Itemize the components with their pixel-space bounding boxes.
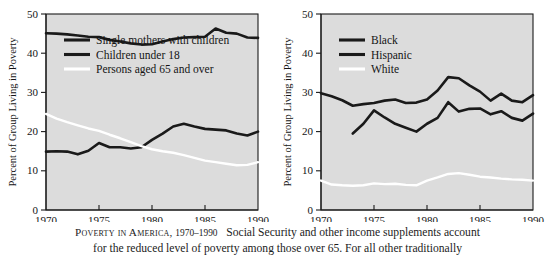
y-axis-title: Percent of Group Living in Poverty [7, 37, 18, 187]
y-tick-label: 20 [302, 125, 314, 137]
chart-panel-right: 0102030405019701975198019851990Percent o… [275, 0, 555, 222]
x-tick-label: 1985 [469, 214, 492, 222]
legend-label: Black [371, 34, 398, 46]
caption-body: Social Security and other income supplem… [226, 226, 480, 239]
x-tick-label: 1990 [522, 214, 545, 222]
x-tick-label: 1980 [416, 214, 439, 222]
legend-label: Single mothers with children [96, 34, 229, 47]
chart-panel-left: 0102030405019701975198019851990Percent o… [0, 0, 280, 222]
figure-caption: Poverty in America, 1970–1990 Social Sec… [0, 225, 555, 256]
poverty-in-america-figure: 0102030405019701975198019851990Percent o… [0, 0, 555, 259]
y-tick-label: 50 [27, 8, 39, 20]
y-axis-title: Percent of Group Living in Poverty [282, 37, 293, 187]
x-tick-label: 1990 [247, 214, 270, 222]
y-tick-label: 30 [302, 86, 314, 98]
y-tick-label: 10 [27, 164, 39, 176]
legend-label: White [371, 63, 399, 75]
chart-panels: 0102030405019701975198019851990Percent o… [0, 0, 555, 222]
x-tick-label: 1970 [35, 214, 58, 222]
y-tick-label: 40 [27, 47, 39, 59]
caption-line-two: for the reduced level of poverty among t… [0, 241, 555, 256]
legend-label: Hispanic [371, 49, 412, 62]
x-tick-label: 1975 [363, 214, 386, 222]
x-tick-label: 1975 [88, 214, 111, 222]
left-line-chart: 0102030405019701975198019851990Percent o… [0, 0, 280, 222]
legend-label: Children under 18 [96, 49, 180, 61]
y-tick-label: 10 [302, 164, 314, 176]
x-tick-label: 1985 [194, 214, 217, 222]
right-line-chart: 0102030405019701975198019851990Percent o… [275, 0, 555, 222]
y-tick-label: 20 [27, 125, 39, 137]
caption-years: 1970–1990 [175, 228, 217, 238]
x-tick-label: 1980 [141, 214, 164, 222]
legend-label: Persons aged 65 and over [96, 63, 214, 76]
y-tick-label: 40 [302, 47, 314, 59]
caption-lead: Poverty in America, [75, 226, 172, 238]
x-tick-label: 1970 [310, 214, 333, 222]
y-tick-label: 30 [27, 86, 39, 98]
y-tick-label: 50 [302, 8, 314, 20]
